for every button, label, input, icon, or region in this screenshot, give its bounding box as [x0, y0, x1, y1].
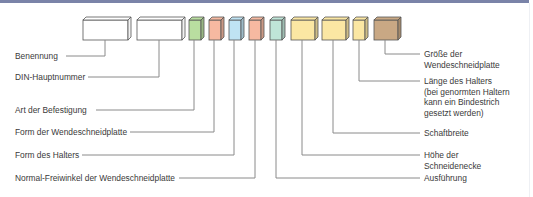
leader-form-des-halters	[82, 40, 234, 155]
label-groesse-der-wendeschneidplatte: Größe der Wendeschneidplatte	[424, 49, 500, 70]
box-front-face	[189, 20, 201, 40]
box-side-face	[182, 17, 185, 40]
label-normal-freiwinkel: Normal-Freiwinkel der Wendeschneidplatte	[15, 173, 175, 184]
box-top-face	[83, 17, 131, 20]
code-box-laenge-des-halters	[353, 17, 368, 40]
code-box-groesse-der-wendeschneidplatte	[374, 17, 401, 40]
box-side-face	[398, 17, 401, 40]
leader-hoehe-der-schneidenecke	[302, 40, 420, 155]
leader-lines	[66, 40, 420, 178]
leader-din-hauptnummer	[88, 40, 159, 77]
label-line: Ausführung	[424, 173, 467, 184]
box-front-face	[374, 20, 398, 40]
label-hoehe-der-schneidenecke: Höhe der Schneidenecke	[424, 150, 481, 171]
box-side-face	[365, 17, 368, 40]
box-front-face	[209, 20, 221, 40]
box-top-face	[374, 17, 401, 20]
code-box-benennung	[83, 17, 131, 40]
box-side-face	[261, 17, 264, 40]
box-front-face	[249, 20, 261, 40]
code-box-hoehe-der-schneidenecke	[291, 17, 318, 40]
box-top-face	[291, 17, 318, 20]
label-laenge-des-halters: Länge des Halters (bei genormten Haltern…	[424, 76, 510, 118]
label-form-des-halters: Form des Halters	[15, 150, 79, 161]
code-box-form-des-halters	[229, 17, 244, 40]
box-front-face	[83, 20, 128, 40]
leader-groesse-der-wendeschneidplatte	[385, 40, 420, 54]
label-line: kann ein Bindestrich	[424, 97, 510, 108]
box-side-face	[315, 17, 318, 40]
box-front-face	[137, 20, 182, 40]
code-box-din-hauptnummer	[137, 17, 185, 40]
box-front-face	[270, 20, 282, 40]
code-box-art-der-befestigung	[189, 17, 204, 40]
label-din-hauptnummer: DIN-Hauptnummer	[15, 72, 85, 83]
box-front-face	[229, 20, 241, 40]
leader-form-der-wendeschneidplatte	[130, 40, 214, 132]
box-top-face	[137, 17, 185, 20]
label-ausfuehrung: Ausführung	[424, 173, 467, 184]
code-box-ausfuehrung	[270, 17, 285, 40]
label-line: Höhe der	[424, 150, 481, 161]
code-box-schaftbreite	[322, 17, 349, 40]
box-side-face	[128, 17, 131, 40]
label-line: Länge des Halters	[424, 76, 510, 87]
leader-normal-freiwinkel	[179, 40, 255, 178]
box-front-face	[322, 20, 346, 40]
label-benennung: Benennung	[15, 51, 58, 62]
box-side-face	[346, 17, 349, 40]
code-boxes	[83, 17, 401, 40]
leader-benennung	[66, 40, 105, 56]
leader-art-der-befestigung	[96, 40, 194, 110]
box-front-face	[353, 20, 365, 40]
box-side-face	[221, 17, 224, 40]
label-form-der-wendeschneidplatte: Form der Wendeschneidplatte	[15, 127, 127, 138]
label-line: Schaftbreite	[424, 128, 469, 139]
box-front-face	[291, 20, 315, 40]
label-line: Schneidenecke	[424, 161, 481, 172]
box-side-face	[241, 17, 244, 40]
label-schaftbreite: Schaftbreite	[424, 128, 469, 139]
label-line: (bei genormten Haltern	[424, 87, 510, 98]
label-line: Größe der	[424, 49, 500, 60]
box-side-face	[282, 17, 285, 40]
box-side-face	[201, 17, 204, 40]
code-box-normal-freiwinkel	[249, 17, 264, 40]
label-line: Wendeschneidplatte	[424, 60, 500, 71]
leader-laenge-des-halters	[359, 40, 420, 81]
code-box-form-der-wendeschneidplatte	[209, 17, 224, 40]
label-line: gesetzt werden)	[424, 108, 510, 119]
box-top-face	[322, 17, 349, 20]
leader-ausfuehrung	[276, 40, 420, 178]
label-art-der-befestigung: Art der Befestigung	[15, 105, 87, 116]
